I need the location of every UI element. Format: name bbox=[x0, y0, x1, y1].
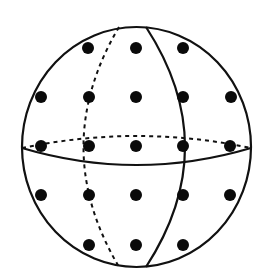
surface-dot bbox=[83, 91, 95, 103]
surface-dot bbox=[82, 42, 94, 54]
surface-dot bbox=[177, 140, 189, 152]
surface-dot bbox=[83, 140, 95, 152]
sphere-figure bbox=[0, 0, 267, 280]
surface-dot bbox=[224, 189, 236, 201]
surface-dot bbox=[83, 239, 95, 251]
surface-dot bbox=[177, 189, 189, 201]
surface-dot bbox=[130, 239, 142, 251]
surface-dot bbox=[35, 91, 47, 103]
sphere-diagram bbox=[0, 0, 267, 280]
surface-dot bbox=[83, 189, 95, 201]
surface-dot bbox=[130, 91, 142, 103]
surface-dot bbox=[130, 140, 142, 152]
surface-dot bbox=[35, 189, 47, 201]
surface-dot bbox=[35, 140, 47, 152]
surface-dot bbox=[224, 140, 236, 152]
surface-dots bbox=[35, 42, 237, 251]
surface-dot bbox=[225, 91, 237, 103]
surface-dot bbox=[177, 239, 189, 251]
surface-dot bbox=[177, 42, 189, 54]
surface-dot bbox=[130, 189, 142, 201]
surface-dot bbox=[130, 42, 142, 54]
surface-dot bbox=[177, 91, 189, 103]
